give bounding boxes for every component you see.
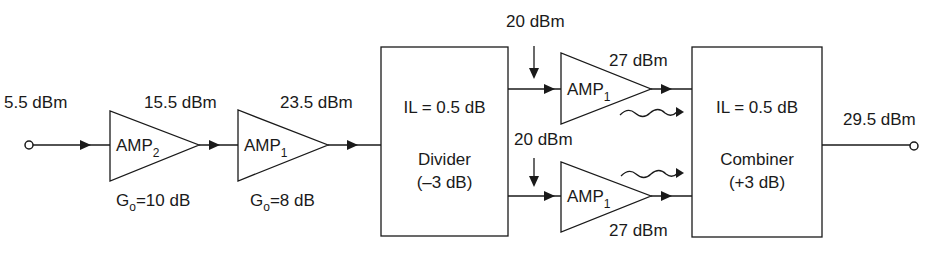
arrow-head-icon bbox=[544, 84, 555, 94]
bottom-branch-output-power: 27 dBm bbox=[609, 221, 668, 240]
divider-box bbox=[381, 47, 508, 236]
amplifier-chain-diagram: 5.5 dBm AMP2 15.5 dBm Go=10 dB AMP1 23.5… bbox=[0, 0, 945, 262]
arrow-head-icon bbox=[80, 140, 91, 150]
output-port-icon bbox=[910, 142, 918, 150]
arrow-head-icon bbox=[676, 168, 684, 178]
top-branch-input-power: 20 dBm bbox=[506, 12, 565, 31]
divider-name: Divider bbox=[418, 150, 471, 169]
amp2-gain: Go=10 dB bbox=[116, 191, 190, 214]
amp1-gain: Go=8 dB bbox=[250, 191, 315, 214]
down-arrow-icon bbox=[529, 176, 539, 187]
wavy-signal-icon bbox=[621, 171, 678, 178]
down-arrow-icon bbox=[529, 68, 539, 79]
input-port-icon bbox=[25, 141, 33, 149]
divider-il: IL = 0.5 dB bbox=[403, 98, 485, 117]
arrow-head-icon bbox=[661, 84, 672, 94]
arrow-head-icon bbox=[209, 140, 220, 150]
arrow-head-icon bbox=[661, 191, 672, 201]
top-branch-output-power: 27 dBm bbox=[609, 51, 668, 70]
arrow-head-icon bbox=[347, 140, 358, 150]
arrow-head-icon bbox=[544, 191, 555, 201]
combiner-name: Combiner bbox=[720, 150, 794, 169]
combiner-il: IL = 0.5 dB bbox=[716, 98, 798, 117]
amp2-output-power: 15.5 dBm bbox=[144, 93, 217, 112]
bottom-branch-input-power: 20 dBm bbox=[514, 130, 573, 149]
wavy-signal-icon bbox=[620, 110, 677, 117]
amp1-output-power: 23.5 dBm bbox=[280, 93, 353, 112]
input-power-label: 5.5 dBm bbox=[4, 93, 67, 112]
arrow-head-icon bbox=[676, 107, 684, 117]
combiner-gain: (+3 dB) bbox=[729, 173, 785, 192]
output-power-label: 29.5 dBm bbox=[843, 110, 916, 129]
divider-gain: (–3 dB) bbox=[417, 173, 473, 192]
combiner-box bbox=[692, 47, 822, 237]
